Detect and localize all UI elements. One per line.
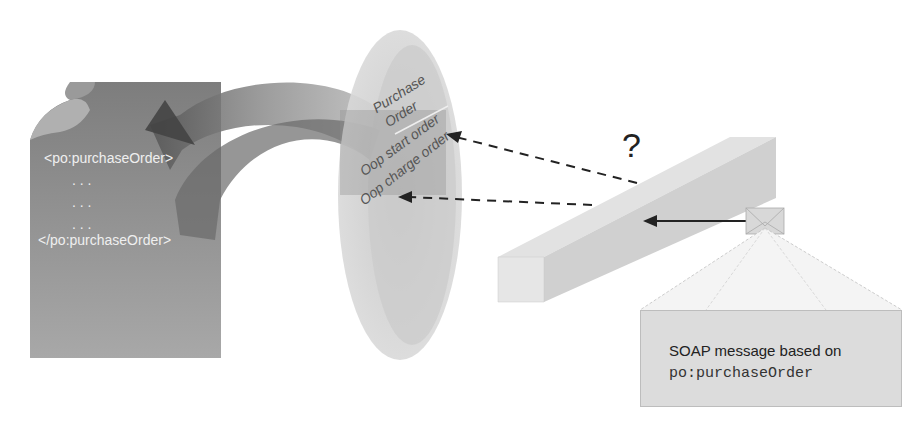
xml-close-tag: </po:purchaseOrder> (38, 232, 171, 248)
xml-ellipsis-2: . . . (72, 194, 91, 210)
diagram: <po:purchaseOrder> . . . . . . . . . </p… (0, 0, 922, 432)
soap-message-box: SOAP message based on po:purchaseOrder (640, 310, 902, 407)
soap-message-element: po:purchaseOrder (669, 365, 813, 382)
soap-message-title: SOAP message based on (669, 342, 841, 359)
xml-open-tag: <po:purchaseOrder> (44, 150, 173, 166)
xml-ellipsis-3: . . . (72, 216, 91, 232)
xml-ellipsis-1: . . . (72, 172, 91, 188)
question-mark: ? (622, 126, 641, 165)
dashed-arrow-start-order (446, 131, 637, 183)
